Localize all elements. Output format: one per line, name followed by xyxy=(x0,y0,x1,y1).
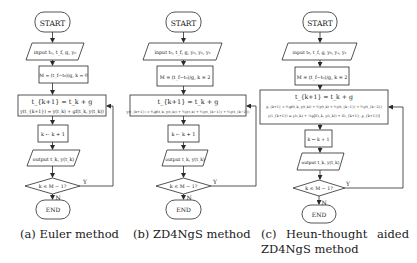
decision-label: k ≤ M − 1? xyxy=(39,184,67,189)
output-label: output t_k, y(t_k) xyxy=(302,160,340,166)
start-label: START xyxy=(171,19,197,28)
end-label: END xyxy=(176,206,191,213)
no-label: N xyxy=(321,199,326,206)
decision-label: k ≤ M − 1? xyxy=(305,186,333,191)
end-label: END xyxy=(312,211,327,218)
yes-label: Y xyxy=(212,178,218,185)
compute-line2: p_{k+1} = ⅘gf(t_k, y(t_k)) + ⅗y(t_k) + ⅕… xyxy=(266,105,382,109)
update-label: k ← k + 1 xyxy=(41,131,65,137)
init-label: M = (t_f−t₀)/g, k = 2 xyxy=(297,75,347,81)
caption-zd4ngs: (b) ZD4NgS method xyxy=(133,227,251,241)
update-label: k ← k + 1 xyxy=(172,131,196,137)
caption-euler: (a) Euler method xyxy=(20,227,119,241)
compute-line3: y(t_{k+1}) = y(t_k) + ½g[f(t_k, y(t_k)) … xyxy=(267,114,380,118)
no-label: N xyxy=(186,194,191,201)
init-label: M = (t_f−t₀)/g, k = 0 xyxy=(39,73,87,79)
compute-line1: t_{k+1} = t_k + g xyxy=(32,98,93,106)
update-label: k ← k + 1 xyxy=(307,137,329,142)
compute-line1: t_{k+1} = t_k + g xyxy=(295,93,353,101)
output-label: output t_k, y(t_k) xyxy=(165,157,205,163)
input-label: input t₀, t_f, g, y₀ xyxy=(34,49,77,56)
caption-heun-line2: ZD4NgS method xyxy=(261,242,359,256)
loop-arrow xyxy=(211,106,256,186)
caption-heun-line1: (c) Heun-thought aided xyxy=(261,227,409,241)
loop-arrow xyxy=(345,107,403,188)
decision-label: k ≤ M − 1? xyxy=(170,184,198,189)
end-label: END xyxy=(46,206,61,213)
start-label: START xyxy=(40,19,66,28)
compute-line1: t_{k+1} = t_k + g xyxy=(158,98,219,106)
init-label: M = (t_f−t₀)/g, k = 2 xyxy=(160,75,210,81)
yes-label: Y xyxy=(82,178,88,185)
input-label: input t₀, t_f, g, y₀, y₁, y₂ xyxy=(293,50,347,56)
input-label: input t₀, t_f, g, y₀, y₁, y₂ xyxy=(154,50,210,56)
flowcharts: START input t₀, t_f, g, y₀ M = (t_f−t₀)/… xyxy=(0,0,417,263)
yes-label: Y xyxy=(345,180,351,187)
start-label: START xyxy=(307,19,333,28)
loop-arrow xyxy=(80,106,113,186)
output-label: output t_k, y(t_k) xyxy=(33,157,75,163)
compute-line2: y(t_{k+1}) = ⅘gf(t_k, y(t_k)) + ⅗y(t_k) … xyxy=(126,110,250,114)
no-label: N xyxy=(55,194,60,201)
compute-line2: y(t_{k+1}) = y(t_k) + gf(t_k, y(t_k)) xyxy=(19,109,104,115)
